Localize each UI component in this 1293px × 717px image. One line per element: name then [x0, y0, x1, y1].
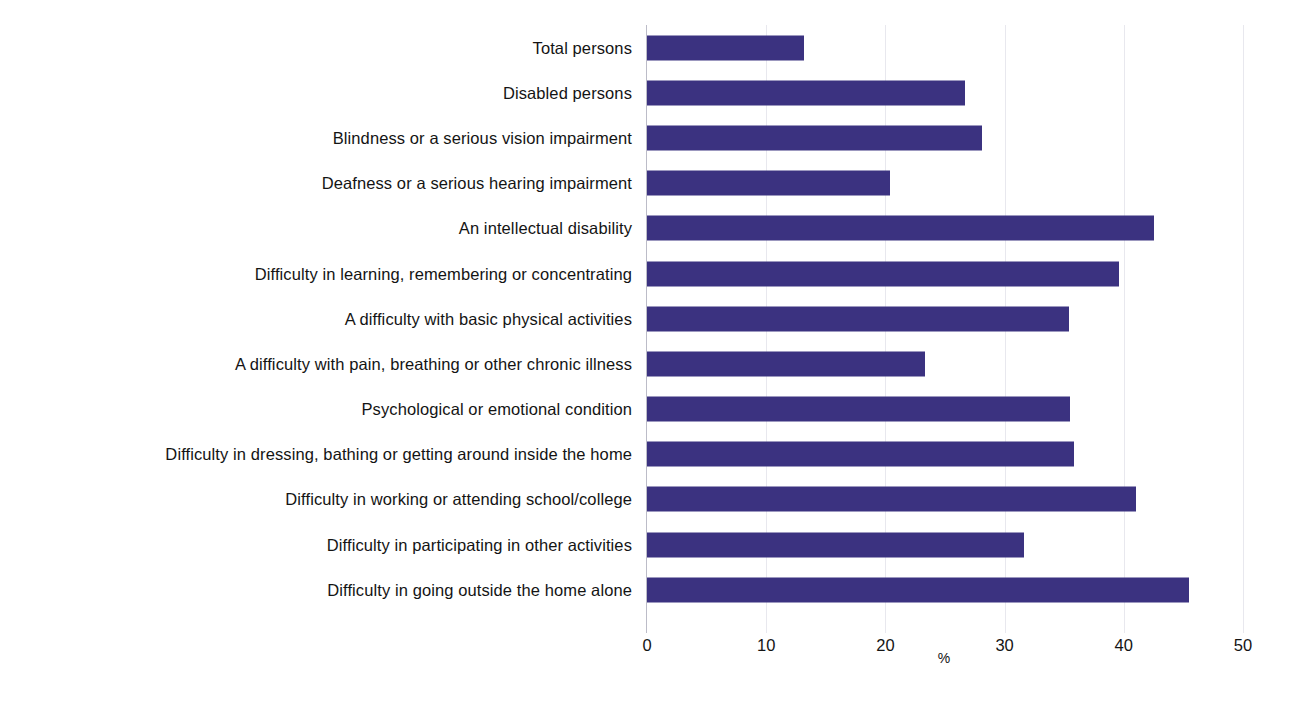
bar[interactable]: [647, 261, 1119, 286]
bar[interactable]: [647, 351, 925, 376]
bar-row: A difficulty with basic physical activit…: [0, 296, 1293, 341]
x-tick-label: 10: [757, 636, 775, 655]
bar-category-label: Difficulty in participating in other act…: [327, 535, 632, 554]
bar-track: [647, 251, 1293, 296]
bar-track: [647, 341, 1293, 386]
bar-rows: Total personsDisabled personsBlindness o…: [0, 25, 1293, 625]
bar-category-label: An intellectual disability: [459, 219, 632, 238]
bar-row: Difficulty in going outside the home alo…: [0, 567, 1293, 612]
bar-row: Total persons: [0, 25, 1293, 70]
x-tick-label: 50: [1234, 636, 1252, 655]
bar-track: [647, 206, 1293, 251]
bar[interactable]: [647, 216, 1154, 241]
x-axis-unit-label: %: [938, 650, 950, 666]
x-tick-label: 40: [1115, 636, 1133, 655]
bar-row: Psychological or emotional condition: [0, 387, 1293, 432]
bar-category-label: Psychological or emotional condition: [361, 400, 632, 419]
bar-category-label: Difficulty in dressing, bathing or getti…: [165, 445, 632, 464]
bar-track: [647, 115, 1293, 160]
bar-track: [647, 161, 1293, 206]
bar[interactable]: [647, 397, 1070, 422]
bar-row: Difficulty in working or attending schoo…: [0, 477, 1293, 522]
bar-track: [647, 567, 1293, 612]
bar[interactable]: [647, 442, 1074, 467]
bar[interactable]: [647, 171, 890, 196]
bar-track: [647, 522, 1293, 567]
bar-row: Difficulty in participating in other act…: [0, 522, 1293, 567]
bar-row: Difficulty in learning, remembering or c…: [0, 251, 1293, 296]
bar-category-label: Disabled persons: [503, 83, 632, 102]
bar[interactable]: [647, 577, 1189, 602]
x-tick-label: 20: [876, 636, 894, 655]
bar[interactable]: [647, 306, 1069, 331]
bar-category-label: A difficulty with basic physical activit…: [345, 309, 632, 328]
bar-track: [647, 70, 1293, 115]
bar-row: Blindness or a serious vision impairment: [0, 115, 1293, 160]
bar-row: Difficulty in dressing, bathing or getti…: [0, 432, 1293, 477]
bar[interactable]: [647, 35, 804, 60]
bar-track: [647, 387, 1293, 432]
bar-category-label: A difficulty with pain, breathing or oth…: [235, 354, 632, 373]
bar-row: An intellectual disability: [0, 206, 1293, 251]
bar-category-label: Difficulty in working or attending schoo…: [285, 490, 632, 509]
bar[interactable]: [647, 532, 1024, 557]
bar-chart: Total personsDisabled personsBlindness o…: [0, 0, 1293, 717]
bar-track: [647, 477, 1293, 522]
bar-row: A difficulty with pain, breathing or oth…: [0, 341, 1293, 386]
bar-track: [647, 25, 1293, 70]
bar-track: [647, 432, 1293, 477]
bar-row: Disabled persons: [0, 70, 1293, 115]
x-tick-label: 30: [995, 636, 1013, 655]
bar-category-label: Deafness or a serious hearing impairment: [322, 174, 632, 193]
bar[interactable]: [647, 125, 982, 150]
bar[interactable]: [647, 487, 1136, 512]
bar-category-label: Difficulty in going outside the home alo…: [327, 580, 632, 599]
bar-row: Deafness or a serious hearing impairment: [0, 161, 1293, 206]
bar-track: [647, 296, 1293, 341]
bar-category-label: Blindness or a serious vision impairment: [333, 128, 632, 147]
bar-category-label: Difficulty in learning, remembering or c…: [255, 264, 632, 283]
bar[interactable]: [647, 80, 965, 105]
bar-category-label: Total persons: [533, 38, 632, 57]
x-tick-label: 0: [642, 636, 651, 655]
x-axis-ticks: 01020304050: [0, 636, 1293, 660]
